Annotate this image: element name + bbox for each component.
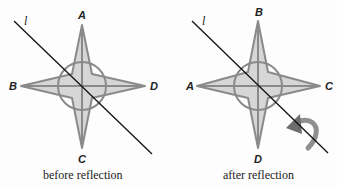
vertex-right-before: D (150, 80, 158, 92)
reflection-diagram: l A B D C before reflection l B A C D af… (0, 0, 337, 187)
vertex-bottom-before: C (78, 153, 87, 165)
caption-after: after reflection (223, 168, 294, 182)
vertex-top-before: A (77, 9, 86, 21)
vertex-left-after: A (185, 80, 194, 92)
diagram-canvas: l A B D C before reflection l B A C D af… (0, 0, 337, 187)
line-label-before: l (24, 14, 28, 28)
star-after (197, 21, 320, 148)
vertex-right-after: C (325, 80, 334, 92)
line-label-after: l (202, 14, 206, 28)
flip-arrow-icon (286, 114, 316, 148)
caption-before: before reflection (43, 168, 123, 182)
vertex-bottom-after: D (254, 153, 262, 165)
vertex-left-before: B (9, 80, 17, 92)
vertex-top-after: B (255, 6, 263, 18)
